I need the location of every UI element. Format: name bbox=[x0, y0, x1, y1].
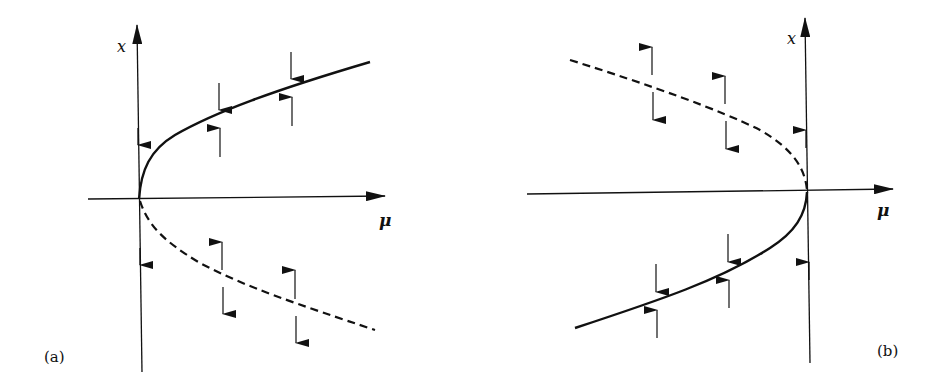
unstable-branch-b bbox=[570, 60, 807, 190]
mu-axis-label-a: μ bbox=[379, 210, 391, 230]
stable-branch-a bbox=[139, 62, 370, 199]
stable-branch-b bbox=[575, 192, 807, 328]
x-axis-label-b: x bbox=[787, 29, 796, 48]
unstable-branch-a bbox=[140, 201, 375, 330]
x-axis-label-a: x bbox=[117, 37, 126, 56]
panel-a: x μ (a) bbox=[44, 25, 391, 372]
panel-b: x μ (b) bbox=[527, 18, 898, 363]
bifurcation-figure: x μ (a) x μ (b) bbox=[0, 0, 949, 391]
panel-label-a: (a) bbox=[44, 348, 65, 366]
mu-axis-a bbox=[88, 196, 385, 199]
mu-axis-b bbox=[527, 189, 893, 194]
panel-label-b: (b) bbox=[877, 342, 898, 360]
mu-axis-label-b: μ bbox=[877, 200, 889, 220]
